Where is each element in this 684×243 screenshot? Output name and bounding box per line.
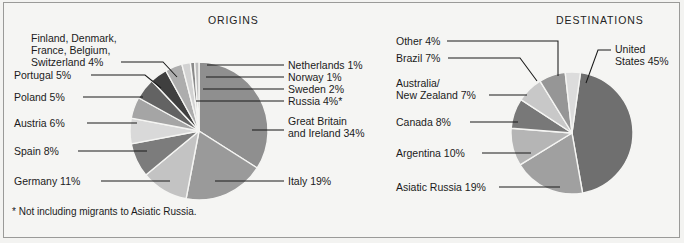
slice-label-argentina: Argentina 10% (396, 147, 465, 159)
chart-destinations: UnitedStates 45%Asiatic Russia 19%Argent… (396, 14, 669, 194)
slice-label-spain: Spain 8% (14, 145, 59, 157)
figure-page: Great Britainand Ireland 34%Italy 19%Ger… (0, 0, 684, 243)
footnote: * Not including migrants to Asiatic Russ… (12, 206, 197, 217)
slice-label-netherlands: Netherlands 1% (288, 59, 363, 71)
slice-label-russia: Russia 4%* (288, 95, 342, 107)
slice-label-norway: Norway 1% (288, 71, 342, 83)
slice-label-asiatic-russia: Asiatic Russia 19% (396, 181, 486, 193)
slice-label-finland-denmark-france-belgium-switzerland-line2: France, Belgium, (31, 44, 110, 56)
slice-label-finland-denmark-france-belgium-switzerland-line3: Switzerland 4% (31, 56, 103, 68)
pie-charts-figure: Great Britainand Ireland 34%Italy 19%Ger… (0, 0, 684, 243)
slice-label-canada: Canada 8% (396, 116, 451, 128)
pie-slice-united-states (572, 73, 633, 193)
slice-label-great-britain-and-ireland: Great Britain (288, 115, 347, 127)
slice-label-sweden: Sweden 2% (288, 83, 344, 95)
slice-label-germany: Germany 11% (14, 175, 80, 187)
slice-label-united-states-line2: States 45% (615, 55, 669, 67)
slice-label-austria: Austria 6% (14, 117, 65, 129)
leader-line-brazil (448, 58, 537, 81)
chart-origins: Great Britainand Ireland 34%Italy 19%Ger… (14, 14, 364, 200)
slice-label-other: Other 4% (396, 35, 440, 47)
slice-label-united-states: United (615, 43, 646, 55)
chart-title-origins: ORIGINS (208, 14, 259, 26)
slice-label-poland: Poland 5% (14, 91, 65, 103)
slice-label-finland-denmark-france-belgium-switzerland: Finland, Denmark, (31, 32, 117, 44)
slice-label-italy: Italy 19% (288, 175, 331, 187)
slice-label-portugal: Portugal 5% (14, 69, 71, 81)
chart-title-destinations: DESTINATIONS (556, 14, 644, 26)
slice-label-brazil: Brazil 7% (396, 52, 440, 64)
slice-label-great-britain-and-ireland-line2: and Ireland 34% (288, 127, 364, 139)
slice-label-australia-new-zealand: Australia/ (396, 77, 440, 89)
slice-label-australia-new-zealand-line2: New Zealand 7% (396, 89, 476, 101)
